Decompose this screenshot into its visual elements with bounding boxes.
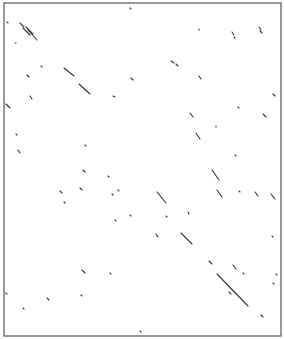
segment xyxy=(27,75,29,77)
segment xyxy=(6,293,7,294)
segment xyxy=(199,76,201,79)
segment xyxy=(130,215,131,216)
segment xyxy=(82,270,85,273)
segment xyxy=(115,220,116,221)
segment xyxy=(85,145,86,146)
segment xyxy=(64,68,74,76)
segment xyxy=(79,84,90,94)
plot-frame xyxy=(4,3,281,336)
segment xyxy=(273,283,274,284)
segment xyxy=(130,8,131,9)
segment xyxy=(113,96,115,97)
segment xyxy=(118,190,119,191)
segment xyxy=(263,114,266,117)
segment xyxy=(276,274,277,275)
segment xyxy=(20,23,24,27)
segment xyxy=(238,107,239,108)
dot-plot-chart xyxy=(0,0,284,339)
segment xyxy=(273,94,275,96)
segment xyxy=(239,191,240,192)
segment xyxy=(217,190,222,197)
segment xyxy=(176,64,178,66)
segment xyxy=(209,261,212,264)
segment xyxy=(80,188,82,190)
segment xyxy=(47,298,49,300)
segment xyxy=(156,234,158,237)
segment xyxy=(7,22,8,23)
segment xyxy=(261,315,263,317)
segment xyxy=(188,212,189,214)
segment xyxy=(272,236,273,237)
segment xyxy=(41,66,42,67)
segment xyxy=(60,191,62,193)
segment xyxy=(18,150,20,153)
segment xyxy=(232,32,234,35)
segment xyxy=(171,61,174,63)
segment xyxy=(217,274,248,306)
segment xyxy=(166,216,167,217)
segment xyxy=(110,273,111,274)
segment xyxy=(108,176,109,177)
segment xyxy=(260,31,262,33)
segment xyxy=(26,27,33,34)
segment xyxy=(131,78,133,80)
segment xyxy=(234,37,235,38)
segment xyxy=(140,331,141,332)
segment xyxy=(64,202,65,203)
segment xyxy=(23,308,24,309)
segment xyxy=(243,273,244,274)
segment xyxy=(233,265,236,269)
segment xyxy=(255,192,258,196)
segment xyxy=(190,113,193,117)
segment xyxy=(212,170,219,180)
segment xyxy=(157,192,166,203)
segment xyxy=(271,194,275,199)
segment xyxy=(259,27,261,30)
segment xyxy=(83,170,85,172)
segment xyxy=(229,292,231,294)
segment xyxy=(235,155,236,156)
segment xyxy=(112,194,113,195)
segment xyxy=(6,104,10,108)
segment xyxy=(181,233,192,244)
segment xyxy=(196,133,200,139)
segment xyxy=(16,134,17,135)
segment xyxy=(30,96,32,99)
segment xyxy=(81,295,82,296)
alignment-segments xyxy=(6,8,277,332)
